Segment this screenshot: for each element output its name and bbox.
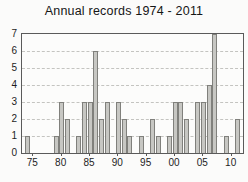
y-tick-label-6: 6 <box>3 46 17 56</box>
x-tick-label-95: 95 <box>135 158 157 168</box>
bar-1979 <box>54 136 59 153</box>
x-tick-mark-00 <box>174 153 175 156</box>
bar-1992 <box>127 136 132 153</box>
gridline-y6 <box>22 51 243 52</box>
bar-1983 <box>76 136 81 153</box>
y-tick-label-3: 3 <box>3 97 17 107</box>
bar-1980 <box>59 102 64 153</box>
bar-2000 <box>173 102 178 153</box>
bar-2004 <box>195 102 200 153</box>
x-tick-mark-10 <box>231 153 232 156</box>
bar-1991 <box>122 119 127 153</box>
y-tick-label-0: 0 <box>3 148 17 158</box>
x-tick-mark-75 <box>32 153 33 156</box>
x-tick-label-90: 90 <box>106 158 128 168</box>
x-tick-mark-85 <box>89 153 90 156</box>
y-tick-label-7: 7 <box>3 29 17 39</box>
bar-2007 <box>212 34 217 153</box>
x-tick-label-00: 00 <box>163 158 185 168</box>
bar-2006 <box>207 85 212 153</box>
bar-2009 <box>224 136 229 153</box>
gridline-y5 <box>22 68 243 69</box>
x-tick-label-05: 05 <box>191 158 213 168</box>
bar-1994 <box>139 136 144 153</box>
bar-1984 <box>82 102 87 153</box>
x-tick-mark-80 <box>61 153 62 156</box>
bar-1985 <box>88 102 93 153</box>
y-tick-label-2: 2 <box>3 114 17 124</box>
bar-2005 <box>201 102 206 153</box>
bar-1997 <box>156 136 161 153</box>
y-tick-label-5: 5 <box>3 63 17 73</box>
x-tick-label-85: 85 <box>78 158 100 168</box>
bar-1986 <box>93 51 98 153</box>
x-tick-mark-95 <box>146 153 147 156</box>
bar-2002 <box>184 119 189 153</box>
y-tick-label-1: 1 <box>3 131 17 141</box>
x-tick-mark-05 <box>202 153 203 156</box>
chart-title: Annual records 1974 - 2011 <box>0 4 248 18</box>
y-tick-label-4: 4 <box>3 80 17 90</box>
bar-1999 <box>167 136 172 153</box>
x-tick-mark-90 <box>117 153 118 156</box>
annual-records-chart: Annual records 1974 - 2011 01234567 7580… <box>0 0 248 182</box>
bar-1990 <box>116 102 121 153</box>
x-tick-label-75: 75 <box>21 158 43 168</box>
bar-1974 <box>25 136 30 153</box>
bar-1987 <box>99 119 104 153</box>
bar-1996 <box>150 119 155 153</box>
plot-area <box>21 33 244 154</box>
bar-2001 <box>178 102 183 153</box>
bar-1981 <box>65 119 70 153</box>
x-tick-label-10: 10 <box>220 158 242 168</box>
x-tick-label-80: 80 <box>50 158 72 168</box>
bar-1988 <box>105 102 110 153</box>
bar-2011 <box>235 119 240 153</box>
